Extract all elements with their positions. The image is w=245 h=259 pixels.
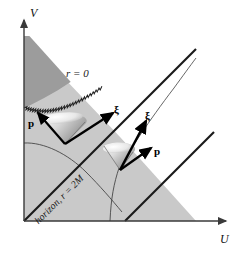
singularity-label: r = 0 <box>66 68 89 79</box>
kruskal-diagram: V U r = 0 horizon, r = 2M p ξ ξ p <box>0 0 245 259</box>
right-xi-label: ξ <box>145 110 150 121</box>
left-p-label: p <box>28 118 34 129</box>
v-axis-label: V <box>30 7 37 19</box>
right-p-label: p <box>154 146 160 157</box>
u-axis-label: U <box>220 233 229 245</box>
left-xi-label: ξ <box>114 104 119 115</box>
